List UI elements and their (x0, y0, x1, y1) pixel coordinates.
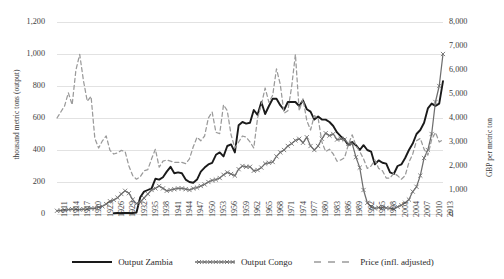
series-output-congo (55, 52, 445, 213)
y-tick-label-right: 3,000 (449, 137, 467, 146)
series-markers (55, 52, 445, 213)
series-line (57, 54, 443, 211)
y-tick-label-left: 800 (33, 81, 45, 90)
x-tick-label: 1911 (60, 201, 69, 217)
legend-item-output-zambia[interactable]: Output Zambia (70, 257, 173, 267)
data-point-marker (115, 196, 119, 200)
y-tick-label-right: 5,000 (449, 89, 467, 98)
legend-item-output-congo[interactable]: Output Congo (193, 257, 292, 267)
y-tick-label-left: 1,200 (27, 17, 45, 26)
x-tick-label: 2013 (446, 201, 455, 217)
solid-line-swatch (70, 257, 114, 267)
data-point-marker (146, 192, 150, 196)
y-tick-label-left: 0 (41, 209, 45, 218)
x-tick-label: 1914 (72, 201, 81, 217)
x-tick-label: 1992 (367, 201, 376, 217)
y-axis-labels-left: 02004006008001,0001,200 (0, 0, 53, 279)
y-tick-label-right: 8,000 (449, 17, 467, 26)
data-point-marker (123, 189, 127, 193)
x-tick-label: 1950 (208, 201, 217, 217)
x-tick-label: 1965 (265, 201, 274, 217)
x-tick-label: 1998 (389, 201, 398, 217)
plot-area (57, 22, 443, 214)
x-tick-label: 2007 (423, 201, 432, 217)
chart-container: thousand metric tons (output) GBP per me… (0, 0, 504, 279)
x-tick-label: 1923 (106, 201, 115, 217)
x-tick-label: 2010 (435, 201, 444, 217)
series-layer (57, 22, 443, 214)
x-tick-label: 1917 (83, 201, 92, 217)
y-tick-label-right: 4,000 (449, 113, 467, 122)
y-tick-label-right: 1,000 (449, 185, 467, 194)
x-tick-label: 1962 (253, 201, 262, 217)
y-tick-label-right: 7,000 (449, 41, 467, 50)
data-point-marker (157, 184, 161, 188)
x-tick-label: 1959 (242, 201, 251, 217)
y-tick-label-right: 6,000 (449, 65, 467, 74)
data-point-marker (259, 166, 263, 170)
x-tick-label: 1980 (321, 201, 330, 217)
data-point-marker (316, 144, 320, 148)
x-tick-label: 1995 (378, 201, 387, 217)
legend-label: Output Zambia (118, 257, 173, 267)
y-tick-label-left: 200 (33, 177, 45, 186)
y-tick-label-right: 2,000 (449, 161, 467, 170)
y-tick-label-left: 400 (33, 145, 45, 154)
x-tick-label: 1938 (162, 201, 171, 217)
data-point-marker (312, 148, 316, 152)
x-marker-line-swatch (193, 257, 237, 267)
x-tick-label: 1932 (140, 201, 149, 217)
x-tick-label: 2001 (401, 201, 410, 217)
data-point-marker (221, 173, 225, 177)
chart-legend: Output ZambiaOutput CongoPrice (infl. ad… (0, 257, 504, 267)
x-tick-label: 1974 (299, 201, 308, 217)
y-tick-label-left: 600 (33, 113, 45, 122)
x-axis-labels: 1911191419171920192319261929193219351938… (57, 216, 443, 256)
x-tick-label: 1971 (287, 201, 296, 217)
x-tick-label: 1929 (128, 201, 137, 217)
dashed-line-swatch (312, 257, 356, 267)
x-tick-label: 1986 (344, 201, 353, 217)
y-axis-labels-right: 01,0002,0003,0004,0005,0006,0007,0008,00… (443, 0, 487, 279)
x-tick-label: 1953 (219, 201, 228, 217)
series-output-zambia (114, 81, 443, 213)
data-point-marker (282, 148, 286, 152)
series-price-infl-adjusted (57, 54, 443, 179)
data-point-marker (274, 154, 278, 158)
x-tick-label: 1983 (333, 201, 342, 217)
x-tick-label: 1956 (230, 201, 239, 217)
data-point-marker (411, 190, 415, 194)
legend-item-price-infl-adjusted[interactable]: Price (infl. adjusted) (312, 257, 434, 267)
data-point-marker (301, 141, 305, 145)
x-tick-label: 2004 (412, 201, 421, 217)
x-tick-label: 1947 (196, 201, 205, 217)
x-tick-label: 1989 (355, 201, 364, 217)
x-tick-label: 1941 (174, 201, 183, 217)
data-point-marker (286, 144, 290, 148)
x-tick-label: 1977 (310, 201, 319, 217)
series-line (57, 54, 443, 179)
series-line (114, 81, 443, 213)
data-point-marker (278, 150, 282, 154)
data-point-marker (127, 191, 131, 195)
legend-label: Price (infl. adjusted) (360, 257, 434, 267)
x-tick-label: 1935 (151, 201, 160, 217)
data-point-marker (142, 196, 146, 200)
x-tick-label: 1968 (276, 201, 285, 217)
x-tick-label: 1920 (94, 201, 103, 217)
legend-label: Output Congo (241, 257, 292, 267)
x-tick-label: 1944 (185, 201, 194, 217)
x-tick-label: 1926 (117, 201, 126, 217)
y-tick-label-left: 1,000 (27, 49, 45, 58)
data-point-marker (161, 186, 165, 190)
data-point-marker (324, 131, 328, 135)
